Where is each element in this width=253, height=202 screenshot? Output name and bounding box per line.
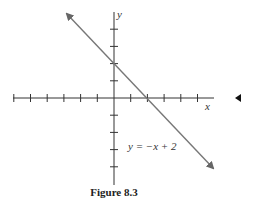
left-triangle-icon <box>235 94 241 102</box>
equation-label: y = −x + 2 <box>127 140 177 152</box>
y-axis-label: y <box>116 8 122 20</box>
figure-caption: Figure 8.3 <box>0 186 228 198</box>
graph: y x y = −x + 2 <box>0 0 253 202</box>
x-axis-label: x <box>204 100 210 112</box>
